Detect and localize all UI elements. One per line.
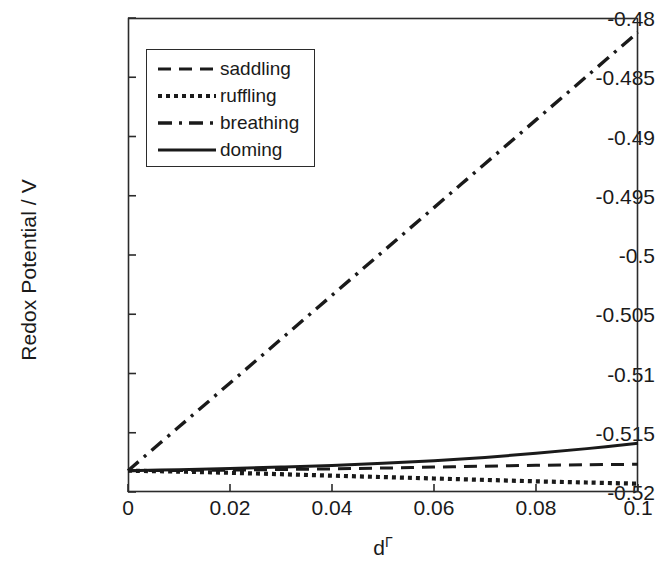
curve-doming [128, 443, 638, 470]
legend-box: saddlingrufflingbreathingdoming [146, 49, 315, 167]
legend-item-ruffling: ruffling [147, 82, 314, 109]
legend-label: doming [220, 140, 282, 159]
plot-area [0, 0, 655, 576]
legend-line-sample-icon [156, 143, 218, 157]
curve-ruffling [128, 471, 638, 484]
legend-label: breathing [220, 113, 299, 132]
legend-label: saddling [220, 59, 291, 78]
legend-item-breathing: breathing [147, 109, 314, 136]
legend-line-sample-icon [156, 62, 218, 76]
legend-item-doming: doming [147, 136, 314, 163]
legend-item-saddling: saddling [147, 55, 314, 82]
legend-label: ruffling [220, 86, 277, 105]
legend-line-sample-icon [156, 116, 218, 130]
chart-figure: Redox Potential / V dΓ -0.48-0.485-0.49-… [0, 0, 655, 576]
legend-line-sample-icon [156, 89, 218, 103]
